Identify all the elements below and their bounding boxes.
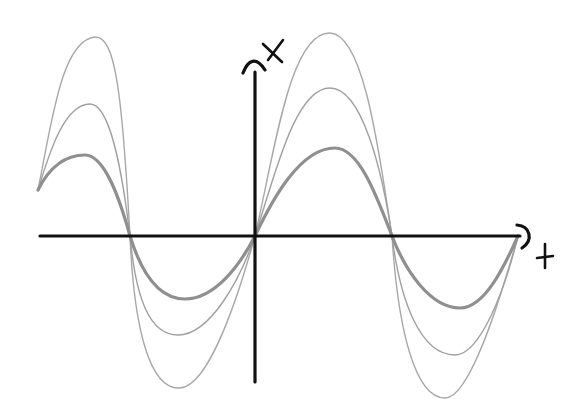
- axis-label-x-glyph: [263, 40, 283, 62]
- axes: [40, 61, 529, 382]
- curve-large-amplitude: [38, 33, 518, 398]
- oscillation-sketch: [0, 0, 583, 415]
- axis-label-t-glyph: [537, 244, 553, 268]
- curve-small-amplitude: [38, 148, 518, 308]
- curve-group: [38, 33, 518, 398]
